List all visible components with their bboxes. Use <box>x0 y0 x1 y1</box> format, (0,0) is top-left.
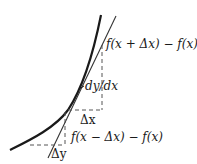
backward-difference-label: f(x − Δx) − f(x) <box>71 131 163 143</box>
delta-x-label: Δx <box>80 114 95 126</box>
delta-y-label: Δy <box>51 148 66 160</box>
derivative-label: dy/dx <box>85 80 118 92</box>
forward-difference-label: f(x + Δx) − f(x) <box>106 38 197 50</box>
